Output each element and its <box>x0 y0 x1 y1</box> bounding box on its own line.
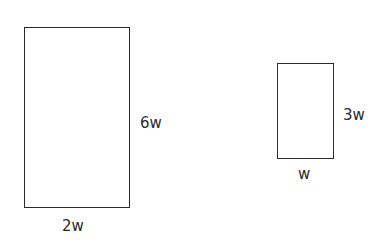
small-rectangle <box>277 63 334 159</box>
small-rectangle-height-label: 3w <box>343 108 365 123</box>
large-rectangle-height-label: 6w <box>140 116 162 131</box>
small-rectangle-width-label: w <box>298 167 310 182</box>
large-rectangle <box>24 27 130 208</box>
large-rectangle-width-label: 2w <box>62 219 84 234</box>
